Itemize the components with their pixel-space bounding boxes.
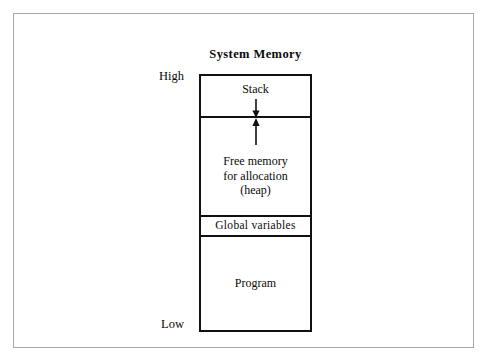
memory-segment-stack-label: Stack <box>201 82 310 97</box>
memory-segment-global-variables: Global variables <box>201 217 310 237</box>
memory-segment-program-label: Program <box>235 276 276 291</box>
memory-segment-heap: Free memory for allocation (heap) <box>201 118 310 217</box>
memory-segment-heap-label-line-3: (heap) <box>223 183 287 198</box>
memory-segment-heap-label-line-1: Free memory <box>223 154 287 169</box>
scale-label-low: Low <box>122 317 184 332</box>
scale-label-high: High <box>122 69 184 84</box>
memory-segment-stack: Stack <box>201 76 310 118</box>
figure-frame: System Memory High Low Stack Free memory… <box>13 13 474 348</box>
figure-title: System Memory <box>199 47 312 62</box>
down-arrow-icon <box>251 99 260 118</box>
memory-segment-heap-label-line-2: for allocation <box>223 169 287 184</box>
memory-segment-program: Program <box>201 237 310 330</box>
memory-segment-heap-label: Free memory for allocation (heap) <box>223 154 287 198</box>
up-arrow-icon <box>251 118 260 145</box>
memory-layout-diagram: Stack Free memory for allocation (heap) … <box>199 74 312 332</box>
memory-segment-global-variables-label: Global variables <box>215 218 295 233</box>
